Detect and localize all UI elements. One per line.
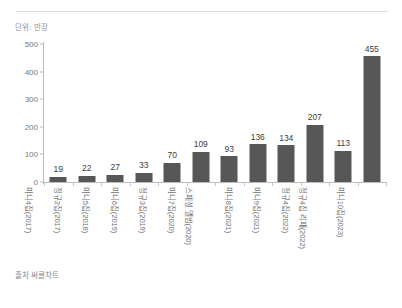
x-axis-tick-label: 미니5집(2018) (81, 187, 92, 233)
bar[interactable] (107, 175, 124, 182)
x-axis-tick-mark (301, 182, 302, 186)
bar[interactable] (192, 152, 209, 182)
bar-slot: 70 (158, 44, 187, 182)
x-axis-tick-mark (358, 182, 359, 186)
bar-value-label: 134 (279, 134, 293, 143)
bar[interactable] (50, 177, 67, 182)
bar-slot: 22 (73, 44, 102, 182)
bar-slot: 109 (187, 44, 216, 182)
x-axis-tick-label: 미니10집(2023) (336, 187, 347, 237)
bar[interactable] (306, 125, 323, 182)
bar[interactable] (135, 173, 152, 182)
source-note: 출처 써클차트 (15, 269, 59, 280)
x-axis-tick-label: 미니6집(2019) (110, 187, 121, 233)
bar-value-label: 93 (225, 145, 234, 154)
plot-area: 0100200300400500192227337010993136134207… (44, 44, 386, 182)
x-axis-tick-mark (130, 182, 131, 186)
x-axis-tick-mark (244, 182, 245, 186)
bar-slot: 455 (358, 44, 387, 182)
bar-value-label: 27 (111, 163, 120, 172)
x-axis-tick-label: 미니9집(2021) (252, 187, 263, 233)
bar-value-label: 70 (168, 151, 177, 160)
x-axis-tick-mark (329, 182, 330, 186)
x-axis-tick-mark (272, 182, 273, 186)
bar-value-label: 136 (251, 133, 265, 142)
unit-caption: 단위: 만장 (15, 21, 48, 32)
x-axis-label-group: 미니4집(2017)정규2집(2017)미니5집(2018)미니6집(2019)… (44, 186, 386, 264)
x-axis-tick-label: 미니4집(2017) (24, 187, 35, 233)
bar-slot: 93 (215, 44, 244, 182)
bar[interactable] (78, 176, 95, 182)
bar[interactable] (335, 151, 352, 182)
bar-value-label: 207 (308, 113, 322, 122)
x-axis-tick-mark (101, 182, 102, 186)
bar-value-label: 22 (82, 164, 91, 173)
bar[interactable] (221, 156, 238, 182)
x-axis-label-slot: 미니10집(2023) (358, 186, 387, 264)
chart-figure: 단위: 만장 010020030040050019222733701099313… (0, 0, 402, 308)
x-axis-tick-mark (215, 182, 216, 186)
bar-value-label: 455 (365, 45, 379, 54)
x-axis-tick-label: 정규4집(2022) (281, 187, 292, 233)
x-axis-tick-label: 미니7집(2020) (167, 187, 178, 233)
bar-slot: 19 (44, 44, 73, 182)
bar-value-label: 113 (336, 139, 350, 148)
x-axis-tick-mark (158, 182, 159, 186)
bar-value-label: 19 (54, 165, 63, 174)
bar-slot: 113 (329, 44, 358, 182)
x-axis-tick-label: 미니8집(2021) (224, 187, 235, 233)
x-axis-tick-label: 정규2집(2017) (53, 187, 64, 233)
bar-slot: 136 (244, 44, 273, 182)
bar-slot: 134 (272, 44, 301, 182)
x-axis-tick-label: 정규3집(2019) (138, 187, 149, 233)
bar[interactable] (363, 56, 380, 182)
bar[interactable] (164, 163, 181, 182)
bar-slot: 33 (130, 44, 159, 182)
x-axis-tick-mark (386, 182, 387, 186)
x-axis-tick-label: 스페셜 앨범(2020) (184, 187, 193, 259)
x-axis-tick-mark (44, 182, 45, 186)
bar-slot: 27 (101, 44, 130, 182)
bar-slot: 207 (301, 44, 330, 182)
x-axis-tick-mark (187, 182, 188, 186)
bar[interactable] (249, 144, 266, 182)
bar[interactable] (278, 145, 295, 182)
x-axis-tick-label: 정규4집 리패(2022) (298, 187, 307, 259)
top-divider (16, 11, 388, 12)
bar-value-label: 109 (194, 140, 208, 149)
x-axis-tick-mark (73, 182, 74, 186)
bar-value-label: 33 (139, 161, 148, 170)
